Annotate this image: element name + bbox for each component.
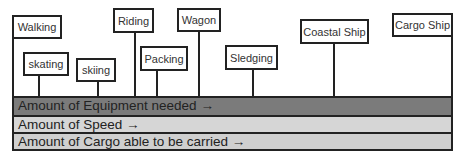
connector-line: [97, 81, 99, 97]
connector-line: [38, 75, 40, 97]
mode-box-packing: Packing: [140, 46, 188, 71]
mode-box-sledging: Sledging: [225, 45, 278, 70]
connector-line: [12, 38, 14, 97]
mode-box-skating: skating: [23, 52, 69, 76]
connector-line: [252, 69, 254, 97]
mode-box-walking: Walking: [12, 15, 62, 39]
mode-box-skiing: skiing: [76, 58, 116, 82]
mode-box-riding: Riding: [113, 8, 154, 33]
connector-line: [156, 70, 158, 97]
mode-box-cargo-ship: Cargo Ship: [392, 13, 453, 37]
mode-box-wagon: Wagon: [177, 8, 221, 32]
connector-line: [198, 31, 200, 97]
connector-line: [134, 32, 136, 97]
cargo-scale-bar: Amount of Cargo able to be carried →: [14, 132, 451, 149]
speed-scale-bar: Amount of Speed →: [14, 115, 451, 132]
connector-line: [451, 36, 453, 97]
scale-bars: Amount of Equipment needed → Amount of S…: [12, 96, 453, 151]
equipment-scale-bar: Amount of Equipment needed →: [14, 98, 451, 115]
connector-line: [333, 43, 335, 97]
mode-box-coastal-ship: Coastal Ship: [300, 19, 369, 44]
